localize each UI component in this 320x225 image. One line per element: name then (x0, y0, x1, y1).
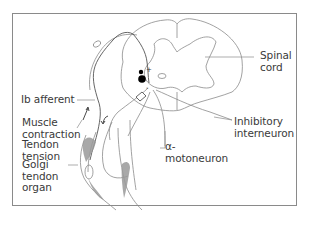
minus-sign: - (146, 84, 149, 92)
alpha-motoneuron-cell (138, 75, 146, 83)
ventral-root (109, 88, 232, 146)
leg-outline (80, 120, 142, 210)
label-ib-afferent: Ib afferent (21, 94, 75, 106)
golgi-tendon-organ (83, 138, 130, 201)
label-inhibitory-interneuron: Inhibitory interneuron (234, 116, 294, 139)
label-muscle-contraction: Muscle contraction (22, 117, 81, 140)
label-spinal-cord: Spinal cord (260, 50, 292, 73)
arrow-icons (83, 107, 108, 124)
spinal-cord-outline (89, 19, 242, 111)
excitatory-synapse-dot (139, 70, 143, 74)
inhibitory-interneuron-cell (136, 92, 146, 101)
plus-sign: + (146, 66, 152, 74)
label-alpha-motoneuron: α- motoneuron (165, 141, 228, 164)
label-golgi-tendon-organ: Golgi tendon organ (22, 159, 58, 194)
